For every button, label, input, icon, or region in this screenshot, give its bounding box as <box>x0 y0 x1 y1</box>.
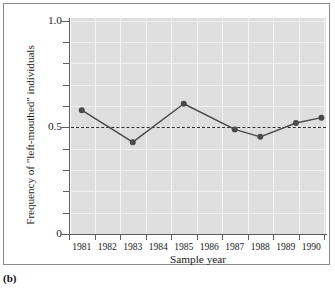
x-axis-tick <box>69 235 70 240</box>
data-point-marker <box>232 126 238 132</box>
y-axis-tick-major <box>61 234 69 235</box>
y-axis-tick-minor <box>63 191 69 192</box>
panel-caption: (b) <box>3 272 16 285</box>
y-axis-tick-minor <box>63 213 69 214</box>
x-axis-tick <box>299 235 300 240</box>
data-point-marker <box>79 107 85 113</box>
y-axis-tick-major <box>61 127 69 128</box>
x-axis-tick <box>273 235 274 240</box>
data-point-marker <box>257 134 263 140</box>
figure-page: Frequency of "left-mouthed" individuals … <box>0 0 335 293</box>
data-series-line <box>71 18 326 234</box>
x-axis-line <box>69 234 327 235</box>
x-axis-tick <box>146 235 147 240</box>
y-tick-label: 0.5 <box>16 121 62 132</box>
y-axis-tick-minor <box>63 42 69 43</box>
y-axis-tick-minor <box>63 149 69 150</box>
data-point-marker <box>318 115 324 121</box>
x-axis-tick <box>120 235 121 240</box>
y-axis-tick-minor <box>63 63 69 64</box>
data-point-marker <box>181 101 187 107</box>
data-point-marker <box>130 139 136 145</box>
x-axis-tick <box>171 235 172 240</box>
x-axis-tick <box>248 235 249 240</box>
y-axis-tick-major <box>61 21 69 22</box>
y-axis-line <box>69 18 70 235</box>
x-axis-tick <box>95 235 96 240</box>
x-tick-label: 1990 <box>295 241 327 253</box>
y-axis-tick-minor <box>63 170 69 171</box>
x-axis-title: Sample year <box>69 253 327 266</box>
series-polyline <box>82 104 322 142</box>
data-point-marker <box>293 120 299 126</box>
figure-frame: Frequency of "left-mouthed" individuals … <box>3 3 330 265</box>
y-axis-tick-labels: 00.51.0 <box>14 4 62 266</box>
y-tick-label: 0 <box>16 228 62 239</box>
x-axis-tick <box>222 235 223 240</box>
y-tick-label: 1.0 <box>16 15 62 26</box>
x-axis-tick <box>197 235 198 240</box>
y-axis-tick-minor <box>63 85 69 86</box>
y-axis-tick-minor <box>63 106 69 107</box>
plot-panel <box>71 18 326 234</box>
x-axis-tick <box>324 235 325 240</box>
